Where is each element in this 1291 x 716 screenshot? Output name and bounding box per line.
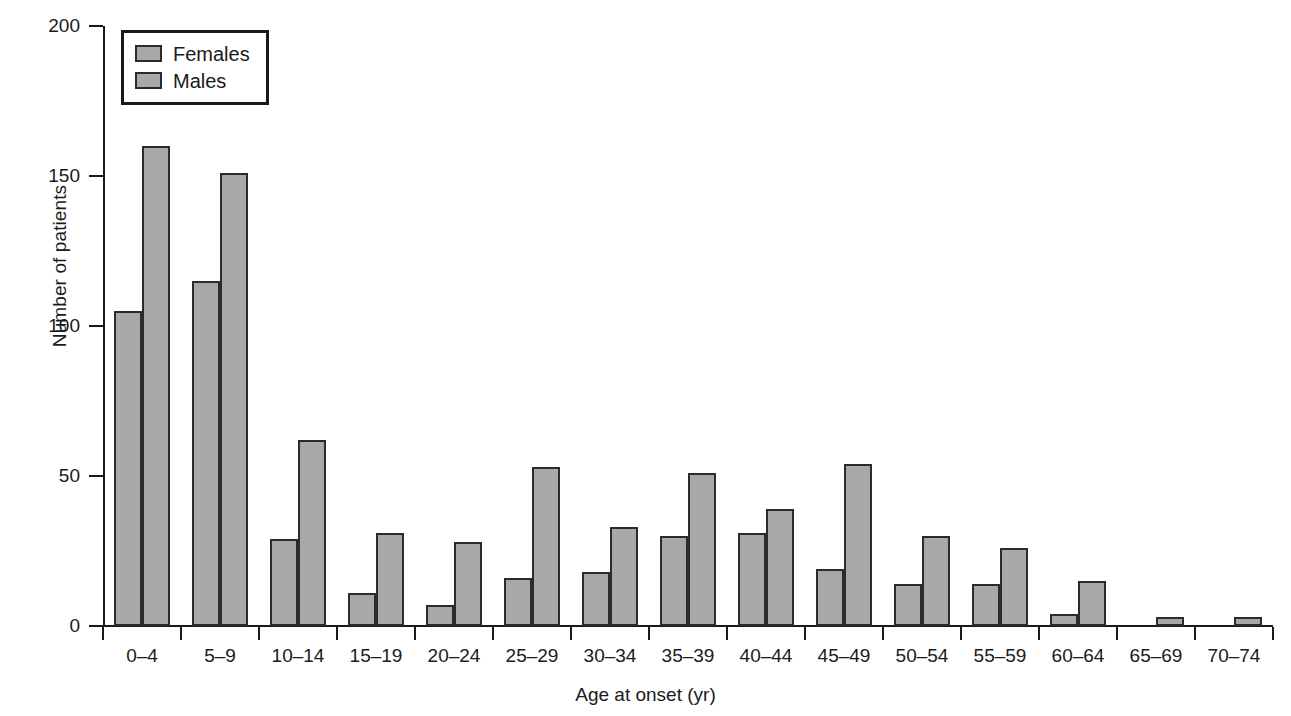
x-tick-mark [180, 627, 182, 640]
bar-females-25-29 [504, 578, 532, 626]
bar-males-45-49 [844, 464, 872, 626]
legend-item-females: Females [135, 40, 250, 67]
y-tick-mark [89, 625, 103, 627]
x-tick-mark [804, 627, 806, 640]
bar-females-5-9 [192, 281, 220, 626]
bar-males-65-69 [1156, 617, 1184, 626]
x-tick-label: 60–64 [1052, 645, 1105, 667]
bar-females-60-64 [1050, 614, 1078, 626]
legend-item-males: Males [135, 67, 250, 94]
x-tick-mark [414, 627, 416, 640]
bar-females-30-34 [582, 572, 610, 626]
x-tick-mark [1116, 627, 1118, 640]
x-tick-label: 40–44 [740, 645, 793, 667]
bar-females-45-49 [816, 569, 844, 626]
x-tick-mark [1038, 627, 1040, 640]
x-tick-label: 65–69 [1130, 645, 1183, 667]
x-axis-title: Age at onset (yr) [0, 684, 1291, 706]
chart-legend: Females Males [121, 30, 269, 105]
x-tick-label: 10–14 [272, 645, 325, 667]
bar-females-40-44 [738, 533, 766, 626]
legend-label-females: Females [173, 44, 250, 64]
y-tick-label: 100 [0, 315, 80, 337]
bar-males-20-24 [454, 542, 482, 626]
x-tick-label: 30–34 [584, 645, 637, 667]
bar-males-35-39 [688, 473, 716, 626]
bar-females-35-39 [660, 536, 688, 626]
x-tick-label: 70–74 [1208, 645, 1261, 667]
y-tick-mark [89, 325, 103, 327]
bar-males-10-14 [298, 440, 326, 626]
x-tick-mark [102, 627, 104, 640]
bar-females-10-14 [270, 539, 298, 626]
x-tick-label: 20–24 [428, 645, 481, 667]
x-tick-mark [726, 627, 728, 640]
x-tick-label: 50–54 [896, 645, 949, 667]
x-tick-mark [1272, 627, 1274, 640]
x-tick-mark [570, 627, 572, 640]
y-tick-label: 150 [0, 165, 80, 187]
plot-area [103, 26, 1273, 626]
x-tick-mark [1194, 627, 1196, 640]
x-tick-label: 55–59 [974, 645, 1027, 667]
x-tick-label: 25–29 [506, 645, 559, 667]
bar-males-40-44 [766, 509, 794, 626]
bar-males-0-4 [142, 146, 170, 626]
bar-males-25-29 [532, 467, 560, 626]
bar-males-70-74 [1234, 617, 1262, 626]
bar-females-0-4 [114, 311, 142, 626]
bar-females-50-54 [894, 584, 922, 626]
bar-females-55-59 [972, 584, 1000, 626]
y-tick-mark [89, 25, 103, 27]
legend-swatch-females [135, 45, 162, 62]
bar-males-30-34 [610, 527, 638, 626]
bar-males-15-19 [376, 533, 404, 626]
bar-males-5-9 [220, 173, 248, 626]
x-tick-mark [258, 627, 260, 640]
bar-males-50-54 [922, 536, 950, 626]
bar-chart-figure: Number of patients 050100150200 0–45–910… [0, 0, 1291, 716]
y-tick-mark [89, 175, 103, 177]
legend-swatch-males [135, 72, 162, 89]
x-tick-mark [648, 627, 650, 640]
x-tick-label: 45–49 [818, 645, 871, 667]
x-tick-mark [336, 627, 338, 640]
y-axis-title: Number of patients [49, 116, 71, 416]
bar-females-20-24 [426, 605, 454, 626]
x-tick-mark [492, 627, 494, 640]
y-tick-mark [89, 475, 103, 477]
bar-females-15-19 [348, 593, 376, 626]
x-tick-label: 5–9 [204, 645, 236, 667]
x-tick-mark [960, 627, 962, 640]
y-tick-label: 200 [0, 15, 80, 37]
x-tick-label: 15–19 [350, 645, 403, 667]
bar-males-55-59 [1000, 548, 1028, 626]
bar-males-60-64 [1078, 581, 1106, 626]
legend-label-males: Males [173, 71, 226, 91]
x-tick-mark [882, 627, 884, 640]
x-tick-label: 0–4 [126, 645, 158, 667]
x-tick-label: 35–39 [662, 645, 715, 667]
y-tick-label: 0 [0, 615, 80, 637]
y-tick-label: 50 [0, 465, 80, 487]
